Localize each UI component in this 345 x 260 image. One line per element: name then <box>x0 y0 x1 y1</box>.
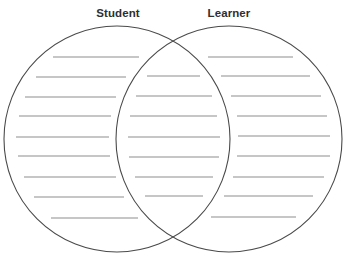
learner-only-region <box>208 57 330 217</box>
venn-canvas <box>0 0 345 260</box>
learner-circle <box>116 26 342 252</box>
venn-diagram: Student Learner <box>0 0 345 260</box>
overlap-region <box>128 76 220 196</box>
student-only-region <box>16 57 139 218</box>
